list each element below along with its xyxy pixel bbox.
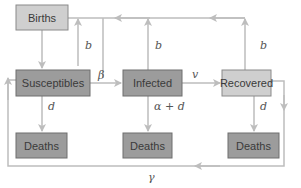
births-label: Births (28, 12, 57, 24)
recovered-label: Recovered (220, 77, 273, 89)
param-beta: β (97, 69, 104, 82)
sir-diagram: Births Susceptibles Infected Recovered D… (0, 0, 301, 188)
param-b-r: b (260, 39, 267, 52)
node-deaths-s: Deaths (16, 133, 67, 158)
param-v: v (192, 68, 199, 81)
param-b-i: b (155, 39, 162, 52)
param-gamma: γ (148, 171, 155, 184)
node-deaths-i: Deaths (123, 133, 172, 158)
deaths-r-label: Deaths (236, 140, 271, 152)
infected-label: Infected (133, 77, 172, 89)
param-d-r: d (260, 100, 267, 113)
param-alpha-d: α + d (154, 100, 185, 113)
deaths-i-label: Deaths (130, 140, 165, 152)
node-susceptibles: Susceptibles (16, 70, 90, 96)
node-recovered: Recovered (220, 70, 273, 96)
node-infected: Infected (123, 70, 182, 96)
param-d-s: d (48, 100, 55, 113)
node-births: Births (16, 5, 68, 30)
param-b-s: b (85, 39, 92, 52)
susceptibles-label: Susceptibles (22, 77, 85, 89)
node-deaths-r: Deaths (228, 133, 279, 158)
deaths-s-label: Deaths (24, 140, 59, 152)
